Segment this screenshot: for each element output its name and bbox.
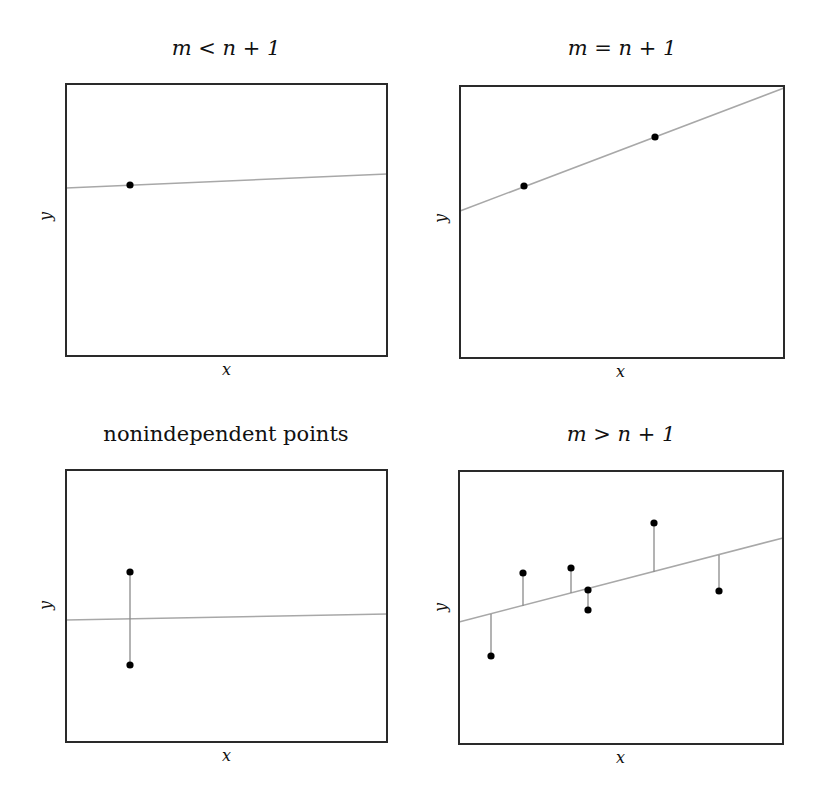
data-point <box>126 568 133 575</box>
data-point <box>519 569 526 576</box>
fit-line <box>459 538 783 622</box>
x-axis-label-nonindependent: x <box>222 746 231 765</box>
panel-nonindependent <box>66 470 387 742</box>
x-axis-label-exact-fit: x <box>616 362 625 381</box>
fit-line <box>66 174 387 188</box>
data-point <box>126 181 133 188</box>
panel-underdetermined <box>66 84 387 356</box>
figure-canvas <box>0 0 830 802</box>
panel-title-underdetermined: m < n + 1 <box>61 36 391 60</box>
data-point <box>487 652 494 659</box>
data-point <box>567 564 574 571</box>
data-point <box>650 519 657 526</box>
panel-exact-fit <box>460 86 784 358</box>
data-point <box>520 182 527 189</box>
panel-least-squares <box>459 471 783 744</box>
panel-title-nonindependent: nonindependent points <box>61 422 391 446</box>
data-point <box>651 133 658 140</box>
plot-frame <box>459 471 783 744</box>
y-axis-label-underdetermined: y <box>36 212 55 221</box>
x-axis-label-underdetermined: x <box>222 360 231 379</box>
y-axis-label-least-squares: y <box>431 603 450 612</box>
plot-frame <box>66 470 387 742</box>
plot-frame <box>460 86 784 358</box>
data-point <box>715 587 722 594</box>
panel-title-exact-fit: m = n + 1 <box>457 36 787 60</box>
data-point <box>584 586 591 593</box>
x-axis-label-least-squares: x <box>616 748 625 767</box>
y-axis-label-nonindependent: y <box>36 601 55 610</box>
data-point <box>126 661 133 668</box>
fit-line <box>66 614 387 620</box>
plot-frame <box>66 84 387 356</box>
y-axis-label-exact-fit: y <box>431 214 450 223</box>
panel-title-least-squares: m > n + 1 <box>456 422 786 446</box>
data-point <box>584 606 591 613</box>
fit-line <box>460 88 784 211</box>
